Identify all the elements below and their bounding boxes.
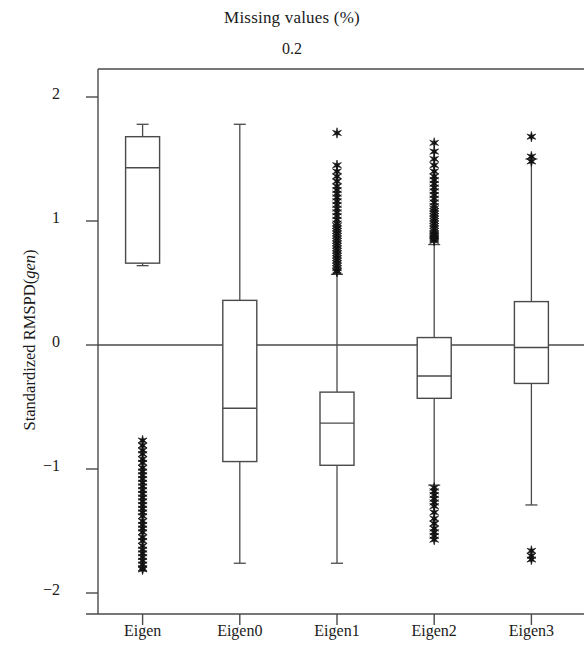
boxplot-eigen1 [320, 274, 354, 563]
outlier-marker [527, 554, 536, 564]
box-iqr [223, 300, 257, 461]
outlier-marker [333, 128, 342, 138]
plot-canvas [0, 0, 584, 661]
box-iqr [417, 338, 451, 399]
boxplot-figure: Missing values (%) 0.2 Standardized RMSP… [0, 0, 584, 661]
box-iqr [320, 392, 354, 465]
outlier-marker [430, 534, 439, 544]
box-iqr [514, 302, 548, 384]
boxplot-eigen3 [514, 159, 548, 505]
boxplot-eigen0 [223, 124, 257, 563]
boxplot-eigen2 [417, 245, 451, 486]
box-iqr [126, 137, 160, 263]
outlier-marker [527, 131, 536, 141]
boxplot-eigen [126, 124, 160, 265]
